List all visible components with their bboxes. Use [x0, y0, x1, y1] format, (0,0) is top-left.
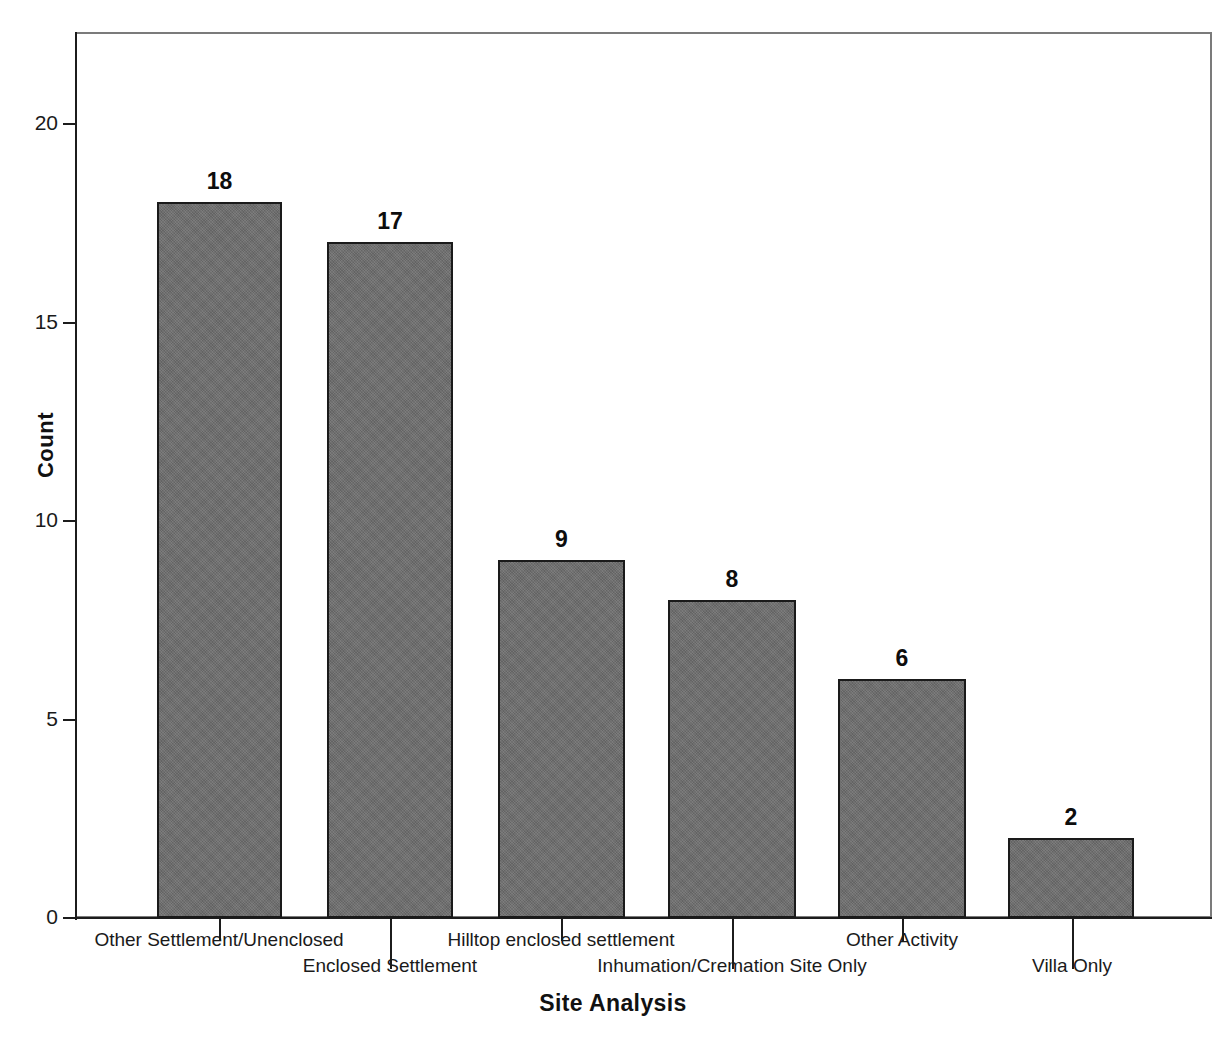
x-axis-label-other-settlement-unenclosed: Other Settlement/Unenclosed [59, 929, 379, 951]
bar-chart: Count 0 5 10 15 20 18 17 9 8 6 2 Other S… [0, 0, 1226, 1049]
bar-value-3: 8 [668, 566, 796, 593]
y-tick-label-0: 0 [22, 905, 58, 929]
y-axis-title: Count [33, 385, 59, 505]
bar-inhumation-cremation-site-only[interactable] [668, 600, 796, 918]
x-axis-label-other-activity: Other Activity [782, 929, 1022, 951]
y-axis-line [75, 32, 77, 920]
x-axis-label-villa-only: Villa Only [952, 955, 1192, 977]
bar-value-4: 6 [838, 645, 966, 672]
bar-enclosed-settlement[interactable] [327, 242, 453, 918]
bar-value-0: 18 [157, 168, 282, 195]
bar-other-activity[interactable] [838, 679, 966, 918]
y-tick-5 [63, 719, 77, 721]
bar-value-5: 2 [1008, 804, 1134, 831]
x-axis-label-hilltop-enclosed-settlement: Hilltop enclosed settlement [411, 929, 711, 951]
y-tick-15 [63, 322, 77, 324]
y-tick-label-15: 15 [10, 310, 58, 334]
bar-other-settlement-unenclosed[interactable] [157, 202, 282, 918]
y-tick-label-20: 20 [10, 111, 58, 135]
bar-hilltop-enclosed-settlement[interactable] [498, 560, 625, 918]
y-tick-20 [63, 123, 77, 125]
x-axis-title: Site Analysis [0, 990, 1226, 1017]
x-axis-label-inhumation-cremation-site-only: Inhumation/Cremation Site Only [572, 955, 892, 977]
y-tick-label-10: 10 [10, 508, 58, 532]
y-tick-0 [63, 917, 77, 919]
y-tick-10 [63, 520, 77, 522]
bar-villa-only[interactable] [1008, 838, 1134, 918]
y-tick-label-5: 5 [22, 707, 58, 731]
bar-value-2: 9 [498, 526, 625, 553]
bar-value-1: 17 [327, 208, 453, 235]
x-axis-label-enclosed-settlement: Enclosed Settlement [250, 955, 530, 977]
